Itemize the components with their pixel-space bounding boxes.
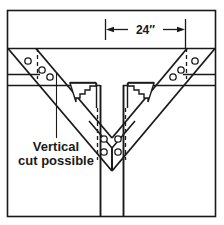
bolt-hole xyxy=(178,67,184,73)
dimension-label: 24″ xyxy=(136,23,155,37)
bolt-hole xyxy=(101,149,107,155)
technical-drawing-canvas: 24″ Vertical cut possible xyxy=(0,0,224,225)
connection-detail-drawing: 24″ Vertical cut possible xyxy=(0,0,224,225)
bolt-hole xyxy=(115,149,121,155)
bolt-hole xyxy=(101,136,107,142)
bolt-hole xyxy=(25,58,31,64)
annotation-line-2: cut possible xyxy=(18,153,94,168)
bolt-hole xyxy=(39,67,45,73)
bolt-hole xyxy=(47,74,53,80)
bolt-hole xyxy=(170,74,176,80)
bolt-hole xyxy=(192,58,198,64)
annotation-line-1: Vertical xyxy=(33,139,79,154)
bolt-hole xyxy=(115,136,121,142)
drawing-border xyxy=(8,11,216,217)
